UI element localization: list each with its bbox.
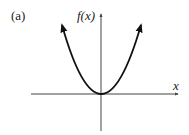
x-axis-label: x: [173, 78, 179, 94]
function-graph-figure: (a) f(x) x: [0, 0, 189, 135]
panel-label: (a): [11, 8, 25, 24]
y-axis-label: f(x): [77, 8, 95, 24]
